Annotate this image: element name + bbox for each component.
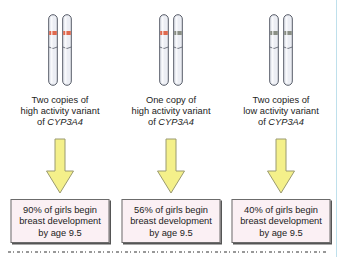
chromosome-icon: [159, 14, 169, 86]
label-line: Two copies of: [4, 95, 116, 106]
genotype-label: Two copies of high activity variant of C…: [4, 95, 116, 129]
gene-name: CYP3A4: [268, 117, 304, 127]
down-arrow-icon: [45, 138, 75, 194]
label-line: low activity variant: [225, 106, 337, 117]
result-box: 56% of girls begin breast development by…: [122, 199, 221, 243]
panel-one-high-copy: One copy of high activity variant of CYP…: [115, 0, 227, 257]
chromosome-icon: [62, 14, 72, 86]
label-line: high activity variant: [115, 106, 227, 117]
label-line: of CYP3A4: [115, 117, 227, 128]
down-arrow-icon: [266, 138, 296, 194]
gene-name: CYP3A4: [47, 117, 83, 127]
label-line: of CYP3A4: [4, 117, 116, 128]
gene-name: CYP3A4: [158, 117, 194, 127]
chromosome-icon: [48, 14, 58, 86]
chromosome-pair: [267, 14, 295, 86]
chromosome-icon: [283, 14, 293, 86]
result-box: 40% of girls begin breast development by…: [232, 199, 331, 243]
chromosome-pair: [46, 14, 74, 86]
chromosome-icon: [173, 14, 183, 86]
chromosome-icon: [269, 14, 279, 86]
result-box: 90% of girls begin breast development by…: [11, 199, 110, 243]
page-edge-divider: [336, 0, 337, 257]
panel-two-high-copies: Two copies of high activity variant of C…: [4, 0, 116, 257]
genotype-label: Two copies of low activity variant of CY…: [225, 95, 337, 129]
label-line: high activity variant: [4, 106, 116, 117]
truncated-caption: [8, 249, 328, 257]
label-line: One copy of: [115, 95, 227, 106]
label-line: Two copies of: [225, 95, 337, 106]
chromosome-pair: [157, 14, 185, 86]
panel-two-low-copies: Two copies of low activity variant of CY…: [225, 0, 337, 257]
down-arrow-icon: [156, 138, 186, 194]
label-line: of CYP3A4: [225, 117, 337, 128]
genotype-label: One copy of high activity variant of CYP…: [115, 95, 227, 129]
